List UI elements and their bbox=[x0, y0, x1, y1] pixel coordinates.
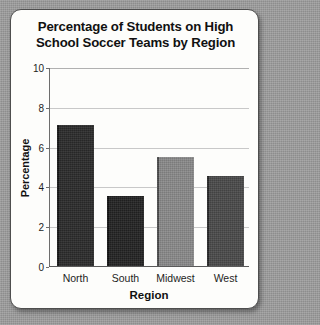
chart-title: Percentage of Students on High School So… bbox=[19, 19, 252, 50]
y-axis-tick bbox=[46, 68, 49, 69]
bar-left-edge bbox=[157, 157, 159, 266]
y-axis-tick-label: 6 bbox=[38, 142, 44, 153]
y-axis-tick-label: 2 bbox=[38, 222, 44, 233]
bar-south bbox=[107, 196, 144, 266]
y-axis-label: Percentage bbox=[18, 68, 32, 267]
bar-north bbox=[57, 125, 94, 266]
chart-card: Percentage of Students on High School So… bbox=[10, 9, 259, 309]
bar-left-edge bbox=[207, 176, 209, 266]
bar-west bbox=[207, 176, 244, 266]
x-axis-tick-label-midwest: Midwest bbox=[156, 272, 195, 284]
y-axis-line bbox=[49, 68, 50, 267]
y-axis-tick bbox=[46, 187, 49, 188]
y-axis-label-text: Percentage bbox=[19, 138, 31, 196]
x-axis-line bbox=[49, 266, 249, 267]
y-axis-tick bbox=[46, 148, 49, 149]
gridline bbox=[50, 68, 249, 69]
x-axis-label: Region bbox=[49, 289, 249, 301]
bar-left-edge bbox=[57, 125, 59, 266]
y-axis-tick bbox=[46, 108, 49, 109]
x-axis-tick-label-north: North bbox=[63, 272, 89, 284]
chart-title-line-2: School Soccer Teams by Region bbox=[19, 35, 252, 51]
plot-area: 0246810 NorthSouthMidwestWest bbox=[49, 68, 249, 267]
y-axis-tick-label: 4 bbox=[38, 182, 44, 193]
y-axis-tick-label: 8 bbox=[38, 102, 44, 113]
bar-left-edge bbox=[107, 196, 109, 266]
y-axis-tick bbox=[46, 227, 49, 228]
x-axis-tick-label-south: South bbox=[112, 272, 139, 284]
y-axis-tick-label: 10 bbox=[33, 63, 44, 74]
chart-title-line-1: Percentage of Students on High bbox=[19, 19, 252, 35]
x-axis-tick-label-west: West bbox=[214, 272, 238, 284]
y-axis-tick bbox=[46, 267, 49, 268]
y-axis-tick-label: 0 bbox=[38, 262, 44, 273]
gridline bbox=[50, 108, 249, 109]
bar-midwest bbox=[157, 157, 194, 266]
